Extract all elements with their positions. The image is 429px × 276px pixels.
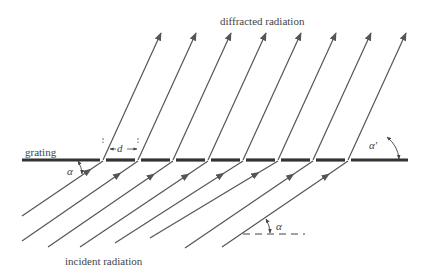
spacing-label: d [117,143,123,154]
reference-angle-arc [266,219,270,233]
diffraction-grating-diagram: diffracted radiation incident radiation … [0,0,429,276]
incident-angle-label: α [67,166,73,177]
diffracted-angle-arc [387,137,399,159]
diffracted-angle-label: α′ [369,140,377,151]
reference-angle-label: α [276,221,282,232]
diffracted-rays [103,33,406,160]
incident-radiation-label: incident radiation [65,256,142,267]
grating-label: grating [25,147,56,158]
diffracted-radiation-label: diffracted radiation [220,16,304,27]
diagram-canvas [0,0,429,276]
incident-angle-arc [78,161,82,174]
